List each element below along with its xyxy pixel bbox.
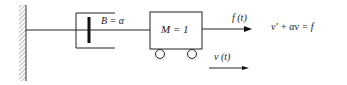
damper-label: B = α xyxy=(101,15,124,26)
equation: v′ + αv = f xyxy=(271,21,314,32)
wheel-left xyxy=(156,50,165,59)
mass-damper-diagram xyxy=(0,0,347,85)
mass-label: M = 1 xyxy=(161,23,189,35)
velocity-label: v (t) xyxy=(214,51,230,62)
force-label: f (t) xyxy=(232,12,247,23)
wheel-right xyxy=(188,50,197,59)
fixed-wall xyxy=(19,5,26,81)
